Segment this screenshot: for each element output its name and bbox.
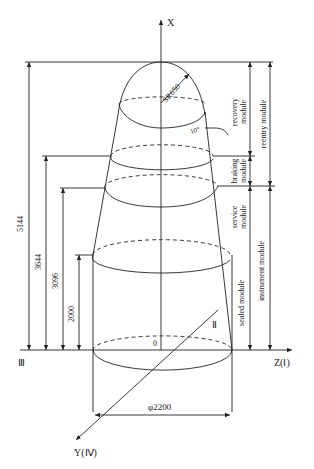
svg-text:module: module — [239, 100, 248, 124]
recovery-ellipse-front — [119, 104, 205, 128]
recovery-module-label: recovery module — [230, 98, 248, 126]
service-ellipse-front — [105, 186, 218, 207]
base-ellipse-front — [93, 350, 232, 370]
svg-text:module: module — [239, 205, 248, 229]
angle-leader — [205, 128, 228, 135]
y-axis — [76, 310, 218, 440]
svg-text:recovery: recovery — [230, 98, 239, 126]
instrument-ellipse-back — [93, 240, 230, 255]
braking-ellipse-front — [111, 156, 213, 170]
spacecraft-diagram: X Z(Ⅰ) Y(Ⅳ) Ⅱ Ⅲ 0 φ2200 SR650 10° 5144 3… — [0, 0, 314, 469]
braking-module-label: braking module — [230, 159, 248, 184]
angle-label: 10° — [189, 125, 201, 136]
svg-text:service: service — [230, 205, 239, 228]
svg-text:braking: braking — [230, 159, 239, 183]
dim-label-2000: 2000 — [67, 306, 76, 322]
instrument-module-label: instrument module — [257, 240, 266, 301]
cone-right-side — [205, 112, 232, 350]
reentry-module-label: reentry module — [259, 99, 268, 148]
sealed-module-label: sealed module — [237, 280, 246, 326]
z-axis-label: Z(Ⅰ) — [274, 357, 290, 369]
braking-ellipse-back — [111, 145, 213, 156]
dim-label-5144: 5144 — [16, 216, 25, 232]
axis-ii-label: Ⅱ — [212, 319, 217, 330]
dim-label-3096: 3096 — [51, 273, 60, 289]
axis-iii-label: Ⅲ — [18, 357, 25, 368]
service-module-label: service module — [230, 205, 248, 229]
base-ellipse-back — [93, 336, 232, 350]
dim-label-3644: 3644 — [34, 254, 43, 270]
diameter-label: φ2200 — [148, 402, 172, 412]
origin-label: 0 — [153, 339, 157, 348]
y-axis-label: Y(Ⅳ) — [74, 447, 97, 459]
svg-text:module: module — [239, 159, 248, 183]
radius-label: SR650 — [161, 82, 182, 104]
x-axis-label: X — [167, 17, 175, 28]
nose-dome — [118, 62, 205, 115]
